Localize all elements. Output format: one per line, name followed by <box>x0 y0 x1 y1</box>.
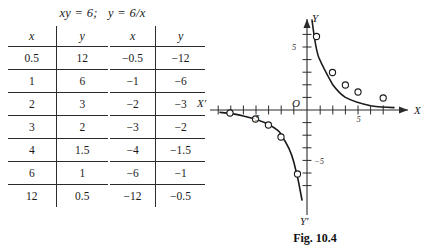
cell-x: −4 <box>110 139 156 162</box>
data-point <box>313 33 319 39</box>
x-tick-label-minus-5: −5 <box>250 113 260 123</box>
cell-x: 12 <box>8 185 56 208</box>
data-point <box>294 171 300 177</box>
table-row: 1 6 <box>8 70 108 93</box>
cell-x: 1 <box>8 70 56 93</box>
data-point <box>278 134 284 140</box>
table-row: −12 −0.5 <box>110 185 205 208</box>
cell-x: 4 <box>8 139 56 162</box>
table-row: 12 0.5 <box>8 185 108 208</box>
y-axis-label: Y <box>312 12 320 24</box>
y-tick-label-5: 5 <box>292 42 296 52</box>
cell-x: −1 <box>110 70 156 93</box>
cell-x: −3 <box>110 116 156 139</box>
cell-x: 3 <box>8 116 56 139</box>
cell-y: 0.5 <box>56 185 108 208</box>
data-point <box>342 82 348 88</box>
column-header-y: y <box>56 26 108 47</box>
y-tick-label-minus-5: −5 <box>314 156 324 166</box>
cell-y: 12 <box>56 47 108 70</box>
cell-x: −0.5 <box>110 47 156 70</box>
table-row: 4 1.5 <box>8 139 108 162</box>
data-point <box>227 110 233 116</box>
cell-x: −2 <box>110 93 156 116</box>
table-row: 2 3 <box>8 93 108 116</box>
data-point <box>380 95 386 101</box>
graph-panel: X X′ Y Y′ O 5 −5 5 −5 <box>196 0 434 251</box>
cell-y: 3 <box>56 93 108 116</box>
figure-caption: Fig. 10.4 <box>255 231 375 246</box>
y-negative-axis-label: Y′ <box>300 215 309 227</box>
table-row: −6 −1 <box>110 162 205 185</box>
data-points-negative <box>227 110 301 177</box>
value-tables-group: x y 0.5 12 1 6 2 3 3 2 <box>0 26 205 207</box>
cell-y: 2 <box>56 116 108 139</box>
column-header-x: x <box>110 26 156 47</box>
cell-x: −6 <box>110 162 156 185</box>
tables-panel: xy = 6; y = 6/x x y 0.5 12 1 6 2 <box>0 0 205 251</box>
table-row: −4 −1.5 <box>110 139 205 162</box>
cell-x: 0.5 <box>8 47 56 70</box>
table-header-row: x y <box>8 26 108 47</box>
positive-branch-table: x y 0.5 12 1 6 2 3 3 2 <box>8 26 108 207</box>
cell-y: 6 <box>56 70 108 93</box>
y-axis-arrow-icon <box>304 19 311 28</box>
table-row: 3 2 <box>8 116 108 139</box>
cell-y: 1.5 <box>56 139 108 162</box>
hyperbola-plot: X X′ Y Y′ O 5 −5 5 −5 <box>196 0 434 230</box>
curve-branch-positive <box>312 20 394 108</box>
x-axis-label: X <box>413 104 422 116</box>
table-row: −2 −3 <box>110 93 205 116</box>
table-header-row: x y <box>110 26 205 47</box>
table-row: −1 −6 <box>110 70 205 93</box>
cell-x: −12 <box>110 185 156 208</box>
negative-branch-table: x y −0.5 −12 −1 −6 −2 −3 −3 <box>110 26 205 207</box>
table-row: 0.5 12 <box>8 47 108 70</box>
x-axis-arrow-icon <box>399 107 408 114</box>
data-point <box>265 122 271 128</box>
origin-label: O <box>292 97 300 109</box>
data-points-positive <box>313 33 386 101</box>
table-row: 6 1 <box>8 162 108 185</box>
column-header-x: x <box>8 26 56 47</box>
x-negative-axis-label: X′ <box>196 97 207 109</box>
curve-branch-negative <box>220 112 302 200</box>
cell-x: 6 <box>8 162 56 185</box>
x-tick-label-5: 5 <box>357 114 361 124</box>
data-point <box>329 69 335 75</box>
equation-heading: xy = 6; y = 6/x <box>0 6 205 21</box>
data-point <box>355 89 361 95</box>
table-row: −3 −2 <box>110 116 205 139</box>
cell-y: 1 <box>56 162 108 185</box>
cell-x: 2 <box>8 93 56 116</box>
table-row: −0.5 −12 <box>110 47 205 70</box>
